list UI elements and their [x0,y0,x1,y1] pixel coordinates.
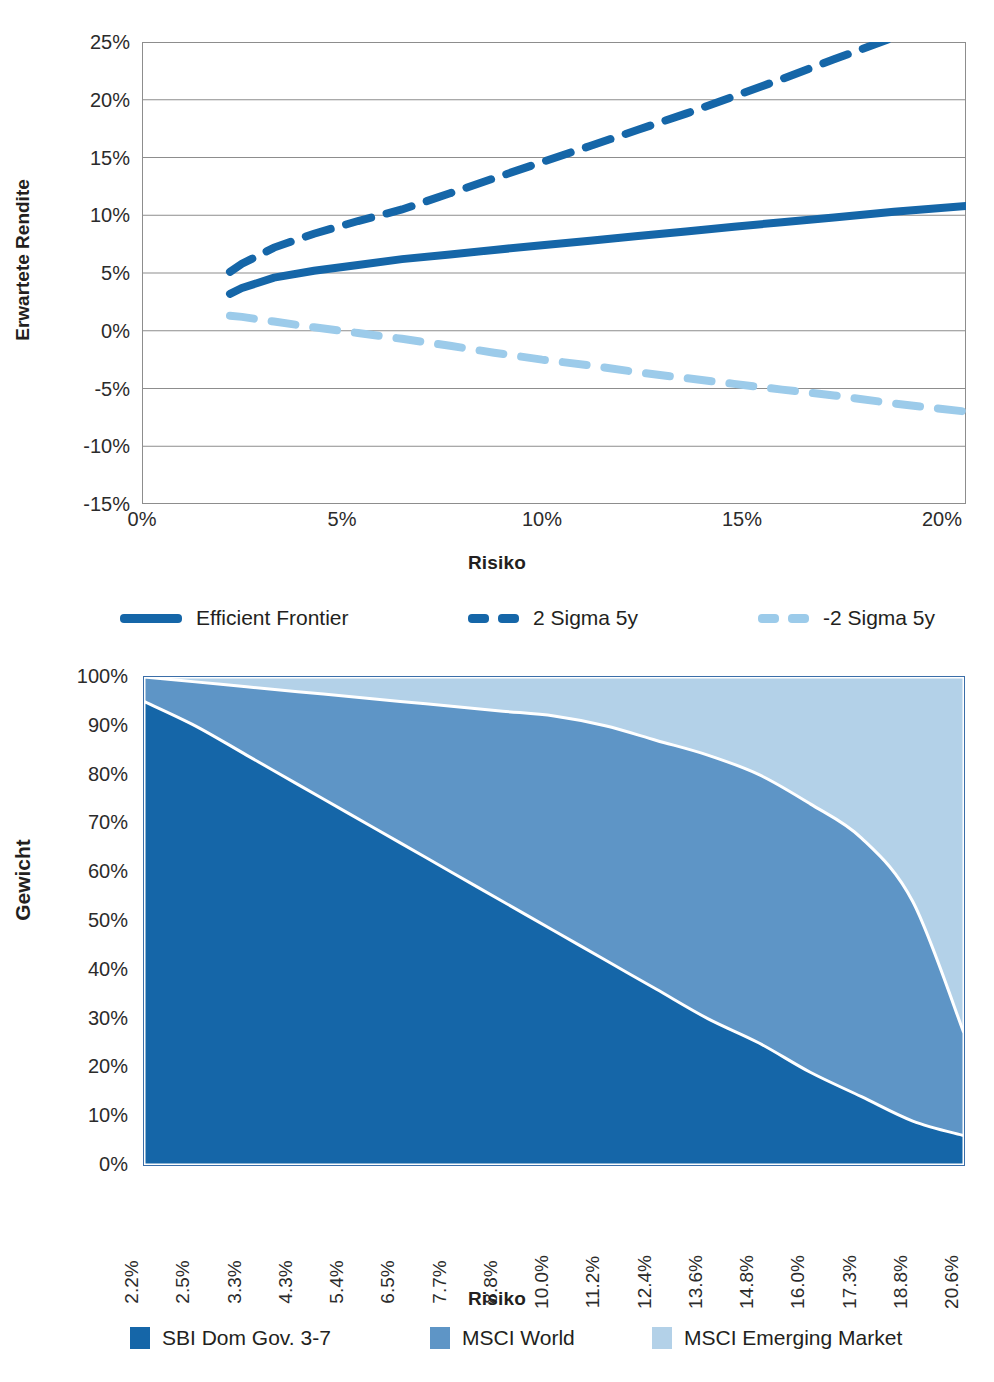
chart1-legend-label: 2 Sigma 5y [533,606,638,630]
legend-swatch-line-icon [120,614,182,623]
legend-swatch-square-icon [652,1327,672,1349]
chart2-y-tick: 30% [88,1006,128,1029]
chart1-legend-item-1[interactable]: 2 Sigma 5y [468,606,638,630]
figure-root: Erwartete Rendite 25%20%15%10%5%0%-5%-10… [0,0,994,1382]
chart2-legend-item-1[interactable]: MSCI World [430,1326,575,1350]
chart1-x-tick: 20% [922,508,962,531]
chart2-y-axis-title: Gewicht [6,780,40,980]
chart1-x-axis-title: Risiko [0,552,994,574]
chart2-legend-label: MSCI World [462,1326,575,1350]
chart2-y-tick: 70% [88,811,128,834]
chart2-y-tick: 20% [88,1055,128,1078]
chart1-y-axis-ticks: 25%20%15%10%5%0%-5%-10%-15% [40,0,138,545]
chart2-legend-item-2[interactable]: MSCI Emerging Market [652,1326,902,1350]
chart1-y-axis-title: Erwartete Rendite [6,150,40,370]
chart1-svg [142,42,966,504]
chart2-x-axis-ticks: 2.2%2.5%3.3%4.3%5.4%6.5%7.7%8.8%10.0%11.… [143,1172,965,1282]
chart2-y-tick: 10% [88,1104,128,1127]
chart2-y-axis-ticks: 100%90%80%70%60%50%40%30%20%10%0% [36,640,136,1140]
chart2-y-tick: 0% [99,1153,128,1176]
chart1-y-tick: 20% [90,88,130,111]
chart2-y-tick: 60% [88,860,128,883]
chart1-y-tick: -10% [83,435,130,458]
chart2-x-axis-title: Risiko [0,1288,994,1310]
legend-swatch-dashed-icon [468,614,519,623]
chart1-x-tick: 5% [328,508,357,531]
chart1-y-tick: 25% [90,31,130,54]
chart1-plot-area [142,42,966,504]
chart2-legend-label: SBI Dom Gov. 3-7 [162,1326,331,1350]
chart2-svg [144,677,964,1165]
chart2-series-group [144,677,964,1165]
efficient-frontier-chart: Erwartete Rendite 25%20%15%10%5%0%-5%-10… [0,0,994,655]
chart2-y-tick: 80% [88,762,128,785]
chart1-legend: Efficient Frontier2 Sigma 5y-2 Sigma 5y [120,598,980,638]
chart2-y-tick: 50% [88,909,128,932]
chart1-x-axis-ticks: 0%5%10%15%20% [142,508,966,542]
chart1-gridlines [142,100,966,447]
chart1-y-tick: -5% [94,377,130,400]
chart1-y-tick: -15% [83,493,130,516]
chart1-y-tick: 5% [101,262,130,285]
chart1-series-group [230,42,966,412]
chart1-series-0 [230,206,966,294]
chart2-legend-label: MSCI Emerging Market [684,1326,902,1350]
chart1-x-tick: 10% [522,508,562,531]
chart2-legend: SBI Dom Gov. 3-7MSCI WorldMSCI Emerging … [130,1320,960,1356]
chart1-x-tick: 15% [722,508,762,531]
chart1-legend-item-0[interactable]: Efficient Frontier [120,606,349,630]
chart2-y-tick: 40% [88,957,128,980]
chart1-y-tick: 15% [90,146,130,169]
chart1-legend-label: -2 Sigma 5y [823,606,935,630]
chart1-legend-item-2[interactable]: -2 Sigma 5y [758,606,935,630]
chart1-series-2 [230,316,966,412]
chart2-plot-area [143,676,965,1166]
chart2-y-tick: 90% [88,713,128,736]
legend-swatch-square-icon [130,1327,150,1349]
chart2-legend-item-0[interactable]: SBI Dom Gov. 3-7 [130,1326,331,1350]
chart1-y-tick: 0% [101,319,130,342]
legend-swatch-square-icon [430,1327,450,1349]
chart2-y-tick: 100% [77,665,128,688]
chart1-legend-label: Efficient Frontier [196,606,349,630]
legend-swatch-dashed-icon [758,614,809,623]
chart1-y-tick: 10% [90,204,130,227]
chart1-x-tick: 0% [128,508,157,531]
